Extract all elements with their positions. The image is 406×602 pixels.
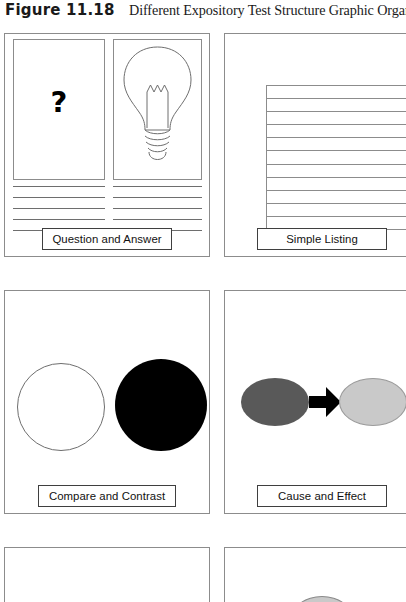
open-circle-icon <box>17 363 105 451</box>
organizer-panel-five[interactable] <box>4 547 210 602</box>
rule-line <box>13 197 105 198</box>
list-item <box>267 165 406 178</box>
dark-ellipse-icon <box>241 378 309 426</box>
rule-line <box>113 219 202 220</box>
list-item <box>267 178 406 191</box>
list-item <box>267 99 406 112</box>
rule-line <box>13 186 105 187</box>
list-item <box>267 204 406 217</box>
lined-list-icon <box>266 85 406 230</box>
list-item <box>267 191 406 204</box>
organizer-panel-six[interactable] <box>224 547 406 602</box>
rule-column-right <box>113 186 202 231</box>
answer-rule-lines <box>13 186 202 231</box>
rule-line <box>113 197 202 198</box>
question-mark-panel: ? <box>13 39 105 180</box>
rule-line <box>113 186 202 187</box>
rule-line <box>113 208 202 209</box>
gray-ellipse-icon <box>291 596 353 602</box>
organizer-label-question-and-answer: Question and Answer <box>42 228 172 250</box>
organizer-panel-compare-and-contrast[interactable]: Compare and Contrast <box>4 290 210 514</box>
organizer-panel-simple-listing[interactable]: Simple Listing <box>224 33 406 257</box>
filled-circle-icon <box>115 359 207 451</box>
rule-line <box>13 208 105 209</box>
organizer-panel-question-and-answer[interactable]: ? <box>4 33 210 257</box>
lightbulb-panel <box>113 39 202 180</box>
lightbulb-icon <box>114 165 201 182</box>
list-item <box>267 151 406 164</box>
list-item <box>267 86 406 99</box>
list-item <box>267 138 406 151</box>
organizer-panel-cause-and-effect[interactable]: Cause and Effect <box>224 290 406 514</box>
list-item <box>267 112 406 125</box>
organizer-label-cause-and-effect: Cause and Effect <box>257 485 387 507</box>
graphic-organizer-grid: ? <box>0 0 406 602</box>
organizer-label-simple-listing: Simple Listing <box>257 228 387 250</box>
rule-line <box>13 219 105 220</box>
rule-column-left <box>13 186 105 231</box>
light-ellipse-icon <box>339 378 406 426</box>
question-mark-icon: ? <box>14 88 104 117</box>
right-arrow-icon <box>309 387 341 417</box>
organizer-label-compare-and-contrast: Compare and Contrast <box>38 485 176 507</box>
list-item <box>267 125 406 138</box>
cause-effect-diagram <box>235 377 406 429</box>
